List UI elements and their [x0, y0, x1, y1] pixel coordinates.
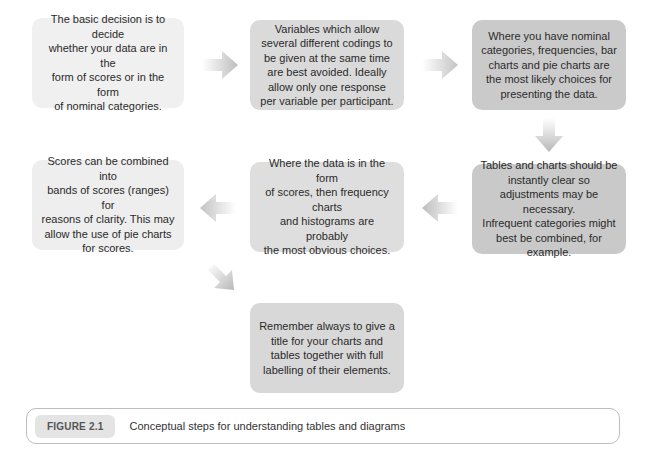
flow-box-1-text: The basic decision is to decide whether …: [40, 12, 176, 114]
figure-label: FIGURE 2.1: [35, 415, 115, 438]
flow-box-5: Where the data is in the form of scores,…: [250, 162, 404, 252]
flow-box-6: Scores can be combined into bands of sco…: [32, 160, 184, 250]
figure-title: Conceptual steps for understanding table…: [129, 420, 405, 432]
flow-box-6-text: Scores can be combined into bands of sco…: [40, 154, 176, 256]
arrow-right-icon: [202, 50, 242, 80]
figure-caption: FIGURE 2.1 Conceptual steps for understa…: [26, 408, 620, 444]
flow-box-2: Variables which allow several different …: [250, 20, 404, 110]
flow-box-7-text: Remember always to give a title for your…: [259, 319, 395, 377]
flow-box-5-text: Where the data is in the form of scores,…: [258, 156, 396, 258]
flow-box-1: The basic decision is to decide whether …: [32, 18, 184, 108]
arrow-down-icon: [534, 118, 564, 156]
flow-box-7: Remember always to give a title for your…: [250, 303, 404, 393]
arrow-down-right-icon: [206, 262, 242, 298]
arrow-left-icon: [418, 193, 458, 223]
flow-box-2-text: Variables which allow several different …: [260, 22, 393, 109]
flow-box-4-text: Tables and charts should be instantly cl…: [480, 158, 618, 260]
arrow-right-icon: [422, 50, 462, 80]
flow-box-4: Tables and charts should be instantly cl…: [472, 164, 626, 254]
flow-box-3: Where you have nominal categories, frequ…: [472, 20, 626, 110]
arrow-left-icon: [196, 193, 236, 223]
flow-box-3-text: Where you have nominal categories, frequ…: [481, 29, 617, 102]
